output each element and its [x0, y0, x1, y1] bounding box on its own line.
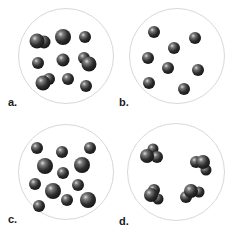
atom-icon	[162, 62, 174, 74]
atom-icon	[31, 142, 43, 154]
atom-icon	[62, 73, 74, 85]
atom-icon	[168, 42, 180, 54]
particles-layer	[0, 0, 233, 242]
atom-icon	[148, 26, 160, 38]
atom-icon	[80, 80, 92, 92]
panel-label-c: c.	[8, 214, 17, 225]
atom-icon	[140, 149, 154, 163]
atom-icon	[80, 192, 96, 208]
atom-icon	[79, 31, 91, 43]
atom-icon	[33, 200, 45, 212]
atom-icon	[143, 77, 155, 89]
atom-icon	[30, 34, 45, 49]
atom-icon	[82, 57, 97, 72]
panel-label-a: a.	[8, 97, 17, 108]
atom-icon	[57, 167, 69, 179]
atom-icon	[55, 29, 71, 45]
atom-icon	[32, 57, 44, 69]
atom-icon	[84, 142, 96, 154]
particles-b	[142, 26, 204, 95]
atom-icon	[178, 83, 190, 95]
molecule-icon	[180, 184, 205, 203]
atom-icon	[37, 158, 53, 174]
atom-icon	[61, 194, 73, 206]
atom-icon	[189, 32, 201, 44]
atom-icon	[36, 76, 51, 91]
atom-icon	[45, 183, 61, 199]
particle-diagram: a. b. c. d.	[0, 0, 233, 242]
atom-icon	[56, 146, 68, 158]
panel-label-b: b.	[119, 97, 129, 108]
atom-icon	[192, 64, 204, 76]
particles-a	[30, 29, 97, 92]
panel-label-d: d.	[119, 216, 129, 227]
atom-icon	[29, 178, 41, 190]
atom-icon	[144, 188, 158, 202]
atom-icon	[142, 52, 154, 64]
particles-d	[140, 144, 212, 205]
molecule-icon	[140, 144, 163, 164]
atom-icon	[74, 157, 90, 173]
molecule-icon	[144, 184, 164, 205]
atom-icon	[196, 155, 210, 169]
atom-icon	[72, 179, 84, 191]
particles-c	[29, 142, 96, 212]
molecule-icon	[190, 155, 212, 176]
atom-icon	[184, 184, 198, 198]
atom-icon	[57, 54, 70, 67]
